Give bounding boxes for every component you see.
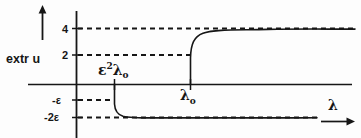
bifurcation-diagram-figure: extr u 4 2 -ε -2ε ε2λo λo λ <box>0 0 361 138</box>
y-axis-arrow-icon <box>39 5 47 40</box>
subscript-zero-glyph: o <box>190 96 196 106</box>
y-tick-label-4: 4 <box>62 24 68 35</box>
x-axis-arrow-icon <box>321 118 355 126</box>
y-axis-label: extr u <box>6 53 40 66</box>
x-tick-label-eps-squared-lambda-zero: ε2λo <box>98 62 129 80</box>
lambda-glyph: λ <box>180 87 190 103</box>
x-axis-label: λ <box>328 98 338 112</box>
x-tick-label-lambda-zero: λo <box>180 88 196 106</box>
epsilon-glyph: ε <box>98 62 107 78</box>
y-tick-label-2: 2 <box>62 50 68 61</box>
upper-branch-curve <box>191 29 356 84</box>
y-tick-label-negative-epsilon: -ε <box>52 95 61 106</box>
lower-branch-curve <box>115 84 318 118</box>
lambda-glyph: λ <box>113 62 123 78</box>
y-tick-label-negative-two-epsilon: -2ε <box>44 112 59 123</box>
subscript-zero-glyph: o <box>123 70 129 80</box>
